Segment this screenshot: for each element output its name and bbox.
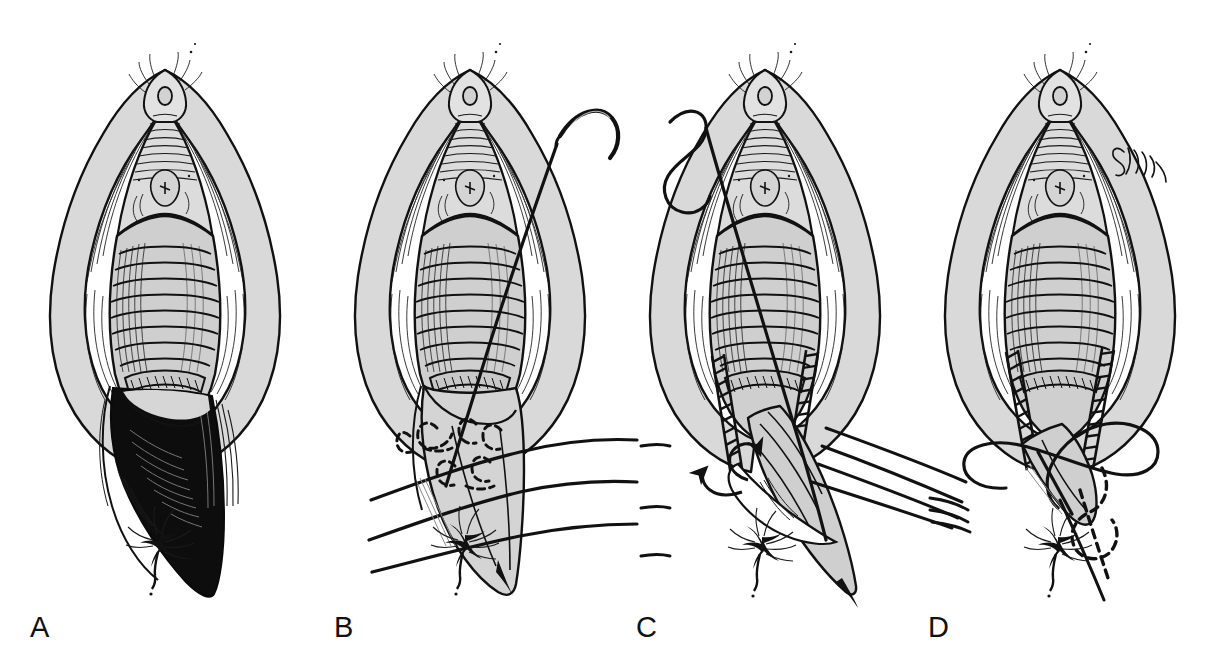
illustration-plate: A B C D <box>0 0 1212 664</box>
panel-label-c: C <box>636 613 657 642</box>
panel-label-a: A <box>30 613 50 642</box>
panel-label-b: B <box>334 613 354 642</box>
surgical-illustration-svg <box>0 0 1212 664</box>
panel-label-d: D <box>928 613 949 642</box>
